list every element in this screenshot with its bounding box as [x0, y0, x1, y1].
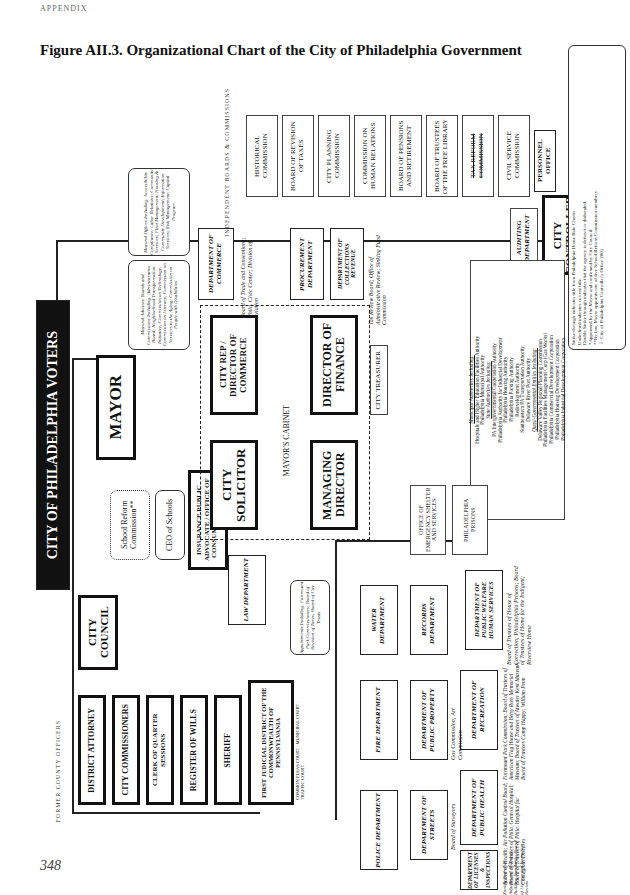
- commerce-boards: Board of Trade and Conventions; Phila. C…: [240, 228, 260, 318]
- board-civil-service: CIVIL SERVICE COMMISSION: [498, 115, 530, 197]
- board-label: COMMISSION ON HUMAN RELATIONS: [362, 116, 377, 196]
- city-council-label: CITY COUNCIL: [86, 598, 110, 667]
- legend-box: Strike-through indicates title from Phil…: [568, 45, 626, 350]
- board-label: BOARD OF PENSIONS AND RETIREMENT: [398, 116, 413, 196]
- dept-commerce-label: DEPARTMENT OF COMMERCE: [208, 229, 223, 299]
- recreation-boards: Fairmount Park Commission; Board of Trus…: [502, 660, 526, 780]
- dept-label: DEPARTMENT OF STREETS: [421, 791, 436, 859]
- school-reform-box: School Reform Commission**: [110, 490, 150, 560]
- officer-label: SHERIFF: [224, 733, 233, 768]
- city-solicitor-label: CITY SOLICITOR: [220, 443, 249, 527]
- board-label: TAX REFORM COMMISSION: [470, 116, 485, 196]
- officer-label: REGISTER OF WILLS: [190, 709, 199, 791]
- ceo-schools-box: CEO of Schools: [155, 490, 185, 560]
- city-rep-box: CITY REP / DIRECTOR OF COMMERCE: [210, 315, 258, 415]
- dept-label: DEPARTMENT OF PUBLIC HEALTH: [471, 771, 486, 844]
- former-city-commissioners: CITY COMMISSIONERS: [112, 695, 140, 805]
- md-dept-prisons: PHILADELPHIA PRISONS: [452, 485, 488, 555]
- city-treasurer-box: CITY TREASURER: [370, 345, 388, 415]
- former-clerk-quarter-sessions: CLERK OF QUARTER SESSIONS: [146, 695, 174, 805]
- independent-boards-label: INDEPENDENT BOARDS & COMMISSIONS: [224, 88, 230, 237]
- dept-label: DEPARTMENT OF RECREATION: [471, 671, 486, 749]
- dept-label: PHILADELPHIA PRISONS: [463, 486, 476, 554]
- authorities-box: Municipal Authorities Including: Hospita…: [470, 260, 565, 520]
- appointments-box: Appointments Including: Fairmount Park C…: [290, 580, 330, 655]
- ceo-schools-label: CEO of Schools: [166, 499, 175, 551]
- board-label: BOARD OF TRUSTEES OF THE FREE LIBRARY: [434, 116, 449, 196]
- officer-label: DISTRICT ATTORNEY: [88, 708, 97, 793]
- law-department-label: LAW DEPARTMENT: [243, 558, 251, 621]
- mayor-label: MAYOR: [107, 375, 126, 440]
- procurement-box: PROCUREMENT DEPARTMENT: [290, 228, 324, 300]
- md-dept-human-services: DEPARTMENT OF PUBLIC WELFARE HUMAN SERVI…: [465, 570, 503, 650]
- officer-label: CLERK OF QUARTER SESSIONS: [152, 698, 167, 802]
- finance-boards: Tax Review Board; Office of Administrati…: [368, 225, 388, 325]
- dept-label: WATER DEPARTMENT: [371, 586, 386, 654]
- dept-label: OFFICE OF EMERGENCY SHELTER AND SERVICES: [418, 486, 438, 554]
- dept-label: FIRE DEPARTMENT: [375, 687, 383, 753]
- board-label: HISTORICAL COMMISSION: [254, 116, 269, 196]
- school-reform-label: School Reform Commission**: [121, 491, 139, 559]
- dept-commerce-box: DEPARTMENT OF COMMERCE: [198, 228, 234, 300]
- public-property-boards: Gas Commission; Art Commission: [450, 700, 463, 760]
- auditing-department-label: AUDITING DEPARTMENT: [516, 209, 531, 267]
- former-register-wills: REGISTER OF WILLS: [180, 695, 208, 805]
- board-pensions: BOARD OF PENSIONS AND RETIREMENT: [390, 115, 422, 197]
- first-judicial-district: FIRST JUDICIAL DISTRICT OF THE COMMONWEA…: [248, 680, 294, 805]
- figure-title: Figure AII.3. Organizational Chart of th…: [40, 42, 522, 59]
- md-dept-public-property: DEPARTMENT OF PUBLIC PROPERTY: [410, 680, 448, 760]
- city-council-box: CITY COUNCIL: [78, 595, 118, 670]
- md-dept-police: POLICE DEPARTMENT: [360, 790, 398, 870]
- dept-label: DEPARTMENT OF PUBLIC WELFARE HUMAN SERVI…: [473, 571, 494, 649]
- board-tax-reform: TAX REFORM COMMISSION: [462, 115, 494, 197]
- human-services-boards: Board of Trustees of House of Correction…: [506, 565, 532, 665]
- city-treasurer-label: CITY TREASURER: [375, 351, 383, 410]
- md-dept-water: WATER DEPARTMENT: [360, 585, 398, 655]
- former-county-officers-label: FORMER COUNTY OFFICERS: [55, 720, 61, 822]
- legend-line: © City of Philadelphia Controller's Offi…: [599, 50, 605, 345]
- streets-boards: Board of Surveyors: [450, 800, 457, 850]
- mayoral-offices-label: Mayoral Offices Including: Accessibility…: [143, 169, 176, 255]
- md-dept-oess: OFFICE OF EMERGENCY SHELTER AND SERVICES: [410, 485, 446, 555]
- md-dept-streets: DEPARTMENT OF STREETS: [410, 790, 448, 860]
- md-dept-fire: FIRE DEPARTMENT: [360, 680, 398, 760]
- former-sheriff: SHERIFF: [214, 695, 242, 805]
- personnel-office: PERSONNEL OFFICE: [534, 130, 556, 192]
- procurement-label: PROCUREMENT DEPARTMENT: [299, 229, 314, 299]
- managing-director-label: MANAGING DIRECTOR: [321, 443, 347, 527]
- director-finance-box: DIRECTOR OF FINANCE: [310, 315, 358, 415]
- md-dept-public-health: DEPARTMENT OF PUBLIC HEALTH: [460, 770, 498, 845]
- voters-box: CITY OF PHILADELPHIA VOTERS: [36, 300, 70, 590]
- mayors-cabinet-label: MAYOR'S CABINET: [283, 405, 292, 477]
- law-department-box: LAW DEPARTMENT: [228, 555, 266, 625]
- board-label: BOARD OF REVISION OF TAXES: [290, 116, 305, 196]
- judicial-courts: COMMON PLEAS COURT · MUNICIPAL COURT · T…: [296, 690, 306, 800]
- md-bus: [335, 540, 337, 820]
- board-label: CIVIL SERVICE COMMISSION: [506, 116, 521, 196]
- officer-label: CITY COMMISSIONERS: [122, 704, 131, 796]
- trunk-line: [72, 358, 74, 813]
- board-city-planning: CITY PLANNING COMMISSION: [318, 115, 350, 197]
- voters-label: CITY OF PHILADELPHIA VOTERS: [45, 331, 60, 559]
- dept-label: DEPARTMENT OF LICENSES & INSPECTIONS: [467, 851, 491, 889]
- former-officers-bus: [72, 812, 260, 814]
- board-label: CITY PLANNING COMMISSION: [326, 116, 341, 196]
- appointments-label: Appointments Including: Fairmount Park C…: [299, 581, 321, 654]
- page-number: 348: [40, 858, 61, 874]
- city-rep-label: CITY REP / DIRECTOR OF COMMERCE: [219, 318, 249, 412]
- mayoral-advisory-label: Mayoral Advisory Boards and Commissions …: [140, 261, 179, 349]
- voters-connector: [72, 358, 98, 360]
- dept-label: RECORDS DEPARTMENT: [421, 586, 436, 654]
- managing-director-box: MANAGING DIRECTOR: [310, 440, 358, 530]
- board-revision-taxes: BOARD OF REVISION OF TAXES: [282, 115, 314, 197]
- board-label: PERSONNEL OFFICE: [537, 131, 552, 191]
- md-dept-recreation: DEPARTMENT OF RECREATION: [460, 670, 498, 750]
- board-human-relations: COMMISSION ON HUMAN RELATIONS: [354, 115, 386, 197]
- dept-revenue-label: DEPARTMENT OF COLLECTIONS REVENUE: [337, 229, 357, 299]
- mayoral-advisory-box: Mayoral Advisory Boards and Commissions …: [128, 260, 190, 350]
- director-finance-label: DIRECTOR OF FINANCE: [321, 318, 347, 412]
- former-district-attorney: DISTRICT ATTORNEY: [78, 695, 106, 805]
- board-historical: HISTORICAL COMMISSION: [246, 115, 278, 197]
- city-solicitor-box: CITY SOLICITOR: [210, 440, 258, 530]
- md-dept-licenses: DEPARTMENT OF LICENSES & INSPECTIONS: [460, 850, 498, 890]
